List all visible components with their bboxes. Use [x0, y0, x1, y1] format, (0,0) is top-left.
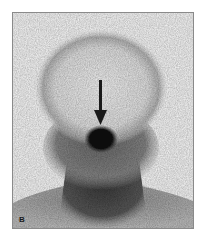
arrow-shaft	[99, 80, 102, 113]
scan-image-frame: B	[12, 12, 194, 229]
focal-uptake-core	[90, 129, 112, 149]
panel-label: B	[19, 216, 25, 224]
scintigraphy-image	[13, 13, 193, 228]
